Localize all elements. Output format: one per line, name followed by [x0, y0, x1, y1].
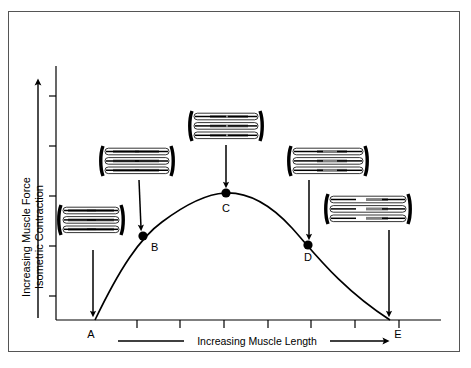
y-axis-label-force: Increasing Muscle Force	[20, 177, 32, 297]
figure-canvas: Increasing Muscle Force Isometric Contra…	[0, 0, 471, 368]
y-axis-label-group: Increasing Muscle Force Isometric Contra…	[20, 82, 45, 318]
point-label-b: B	[151, 241, 158, 253]
curve-data-points	[138, 188, 312, 249]
data-point-d[interactable]	[303, 240, 312, 249]
x-axis-ticks	[137, 320, 399, 328]
length-tension-diagram: Increasing Muscle Force Isometric Contra…	[0, 0, 471, 368]
data-point-c[interactable]	[221, 188, 230, 197]
y-axis-ticks	[49, 96, 56, 296]
sarcomere-c[interactable]	[190, 111, 263, 141]
y-axis-label-isometric: Isometric Contraction	[33, 185, 45, 289]
pointer-arrow-b	[139, 180, 141, 228]
point-label-d: D	[304, 251, 312, 263]
sarcomere-b[interactable]	[101, 146, 174, 176]
sarcomere-a[interactable]	[59, 205, 124, 235]
data-point-b[interactable]	[138, 231, 147, 240]
x-axis-label-group: Increasing Muscle Length	[118, 335, 386, 347]
x-axis-label: Increasing Muscle Length	[197, 335, 317, 347]
sarcomere-d[interactable]	[289, 146, 368, 176]
point-label-a: A	[87, 328, 95, 340]
point-label-c: C	[222, 202, 230, 214]
sarcomere-e[interactable]	[326, 194, 411, 224]
point-label-e: E	[394, 328, 401, 340]
